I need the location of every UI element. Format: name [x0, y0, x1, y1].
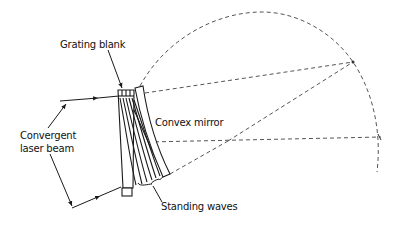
grating-blank-label: Grating blank	[60, 38, 125, 51]
standing-waves-label: Standing waves	[161, 200, 238, 213]
focal-circle-arc	[140, 12, 378, 172]
convex-mirror-label: Convex mirror	[155, 116, 223, 129]
convergent-label-line1: Convergent	[20, 129, 76, 142]
convex-mirror	[135, 86, 170, 177]
convergent-label-line2: laser beam	[20, 142, 74, 155]
focus-point	[352, 61, 355, 64]
diagram-canvas	[0, 0, 401, 226]
